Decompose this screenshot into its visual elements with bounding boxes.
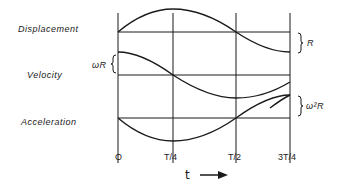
tick-0: O bbox=[115, 152, 122, 162]
motion-diagram: Displacement Velocity Acceleration R ωR … bbox=[0, 0, 339, 189]
label-displacement: Displacement bbox=[18, 24, 79, 34]
label-omegaR: ωR bbox=[92, 60, 107, 70]
label-R: R bbox=[307, 38, 314, 48]
label-velocity: Velocity bbox=[27, 70, 62, 80]
x-axis-label: t bbox=[185, 168, 190, 182]
acceleration-curve-continuation bbox=[270, 95, 290, 108]
brace-omega2R bbox=[298, 96, 303, 116]
tick-3t4: 3T/4 bbox=[278, 152, 296, 162]
displacement-curve bbox=[118, 9, 290, 52]
tick-t4: T/4 bbox=[164, 152, 177, 162]
brace-R bbox=[298, 33, 303, 53]
right-arrow-icon bbox=[200, 171, 228, 179]
tick-t2: T/2 bbox=[228, 152, 241, 162]
label-acceleration: Acceleration bbox=[20, 117, 77, 127]
brace-omegaR bbox=[111, 55, 116, 73]
label-omega2R: ω²R bbox=[306, 101, 324, 111]
